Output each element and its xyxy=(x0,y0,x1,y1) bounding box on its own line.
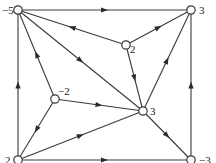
node-B xyxy=(187,6,195,14)
arrowhead-icon xyxy=(163,57,168,64)
arrowhead-icon xyxy=(188,82,193,89)
node-labels-layer: −532−232−3 xyxy=(2,4,211,163)
edges-layer xyxy=(15,7,193,162)
node-value-label: 2 xyxy=(5,154,11,163)
node-value-label: 2 xyxy=(130,43,136,55)
arrowhead-icon xyxy=(95,102,102,107)
node-F xyxy=(14,156,22,163)
node-value-label: 3 xyxy=(150,105,156,117)
node-C xyxy=(122,41,130,49)
directed-graph: −532−232−3 Figure 10.14 xyxy=(0,0,216,163)
arrowhead-icon xyxy=(131,74,136,81)
arrowhead-icon xyxy=(154,26,161,32)
arrowhead-icon xyxy=(101,7,108,12)
node-value-label: 3 xyxy=(199,4,205,16)
arrowhead-icon xyxy=(35,125,41,132)
node-value-label: −3 xyxy=(199,154,211,163)
node-value-label: −2 xyxy=(58,85,70,97)
arrowhead-icon xyxy=(76,134,83,139)
node-A xyxy=(14,6,22,14)
node-value-label: −5 xyxy=(2,4,14,16)
node-E xyxy=(139,107,147,115)
arrowhead-icon xyxy=(15,82,20,89)
node-G xyxy=(187,156,195,163)
figure-caption: Figure 10.14 xyxy=(79,161,138,163)
arrowhead-icon xyxy=(69,26,76,31)
arrowhead-icon xyxy=(35,51,40,58)
nodes-layer xyxy=(14,6,195,163)
